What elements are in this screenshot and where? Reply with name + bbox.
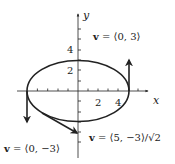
y-axis-label: y: [82, 9, 90, 22]
y-ticks: [78, 29, 81, 142]
x-tick-2: 2: [95, 97, 101, 108]
annotation-bottom-left: v = ⟨0, −3⟩: [3, 143, 60, 154]
y-tick-2: 2: [67, 65, 73, 76]
ellipse-velocity-diagram: 2 4 2 4 x y v = ⟨0, 3⟩ v = ⟨5, −3⟩/√2 v …: [0, 0, 175, 164]
annotation-top: v = ⟨0, 3⟩: [92, 31, 141, 42]
annotation-bottom-right: v = ⟨5, −3⟩/√2: [88, 132, 161, 143]
y-tick-4: 4: [67, 44, 73, 55]
velocity-arrow-diagonal: [42, 113, 77, 133]
x-tick-4: 4: [115, 97, 121, 108]
x-axis-label: x: [153, 94, 160, 107]
